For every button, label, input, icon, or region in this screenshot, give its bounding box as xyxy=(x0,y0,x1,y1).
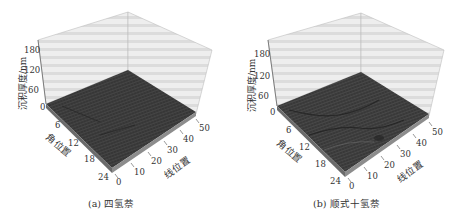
z-axis-label: 沉积厚度/nm xyxy=(245,59,258,112)
z-tick: 120 xyxy=(254,72,270,81)
x-tick: 50 xyxy=(432,128,443,137)
y-tick: 18 xyxy=(315,160,326,169)
x-tick: 10 xyxy=(367,172,378,181)
x-tick: 50 xyxy=(199,124,210,133)
y-tick: 6 xyxy=(286,126,291,135)
surface-plot-b xyxy=(229,0,459,217)
y-tick: 6 xyxy=(55,121,60,130)
y-tick: 24 xyxy=(98,173,109,182)
x-tick: 20 xyxy=(384,161,395,170)
x-tick: 30 xyxy=(400,150,411,159)
z-tick: 60 xyxy=(28,86,39,95)
chart-panel-b: 沉积厚度/nm 180 120 60 0 6 12 18 24 角位置 0 10… xyxy=(229,0,459,217)
z-tick: 180 xyxy=(24,46,40,55)
x-tick: 40 xyxy=(183,135,194,144)
figure-caption-b: (b) 顺式十氢萘 xyxy=(313,196,380,210)
z-tick: 180 xyxy=(254,50,270,59)
y-tick: 24 xyxy=(330,177,341,186)
z-tick: 120 xyxy=(24,66,40,75)
z-tick: 60 xyxy=(258,92,269,101)
x-tick: 20 xyxy=(151,157,162,166)
y-tick: 18 xyxy=(84,155,95,164)
x-tick: 30 xyxy=(167,146,178,155)
surface-plot-a xyxy=(0,0,230,217)
chart-panel-a: 沉积厚度/nm 180 120 60 0 6 12 18 24 角位置 0 10… xyxy=(0,0,230,217)
figure-caption-a: (a) 四氢萘 xyxy=(88,196,134,210)
x-tick: 0 xyxy=(349,182,354,191)
x-tick: 0 xyxy=(116,178,121,187)
x-tick: 40 xyxy=(416,139,427,148)
z-tick: 0 xyxy=(40,103,45,112)
z-tick: 0 xyxy=(270,108,275,117)
x-tick: 10 xyxy=(134,168,145,177)
